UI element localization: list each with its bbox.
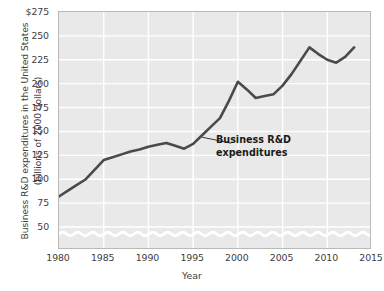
series-annotation: Business R&D expenditures [216, 134, 291, 159]
y-tick-label: 50 [0, 221, 54, 232]
axis-break-squiggle [59, 232, 371, 235]
annotation-text: Business R&D expenditures [216, 134, 291, 158]
x-axis-tick-labels: 19801985199019952000200520102015 [0, 252, 384, 268]
x-tick-label: 1985 [91, 252, 114, 263]
y-tick-label: 175 [0, 101, 54, 112]
x-tick-label: 2015 [359, 252, 382, 263]
y-axis-tick-labels: 5075100125150175200225250$275 [0, 0, 54, 291]
x-tick-label: 2005 [270, 252, 293, 263]
x-axis-title: Year [0, 270, 384, 281]
chart-container: Business R&D expenditures in the United … [0, 0, 384, 291]
y-tick-label: 250 [0, 29, 54, 40]
x-tick-label: 1995 [180, 252, 203, 263]
y-tick-label: $275 [0, 6, 54, 17]
y-tick-label: 75 [0, 197, 54, 208]
y-tick-label: 225 [0, 53, 54, 64]
x-axis-title-text: Year [182, 270, 202, 281]
y-tick-label: 125 [0, 149, 54, 160]
x-tick-label: 2000 [225, 252, 248, 263]
x-tick-label: 1980 [46, 252, 69, 263]
x-gridlines [104, 12, 328, 249]
plot-area [58, 11, 371, 249]
y-tick-label: 150 [0, 125, 54, 136]
y-tick-label: 200 [0, 77, 54, 88]
plot-svg [59, 12, 371, 249]
x-tick-label: 1990 [136, 252, 159, 263]
y-gridlines [59, 36, 371, 227]
x-tick-label: 2010 [315, 252, 338, 263]
y-tick-label: 100 [0, 173, 54, 184]
